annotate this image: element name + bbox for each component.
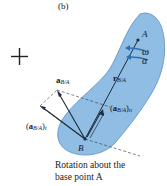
plus-icon [11,48,28,65]
point-a-label: A [142,30,148,39]
panel-label: (b) [58,2,69,11]
alpha-label: α [142,56,147,66]
rigid-body [58,13,165,155]
point-b-label: B [78,144,84,153]
a-ba-normal-label: (aB/A)n [110,104,132,113]
caption-line-1: Rotation about the [55,159,125,171]
a-ba-label: aB/A [56,76,70,85]
figure-caption: Rotation about the base point A [55,159,125,183]
point-a-dot [136,38,139,41]
caption-line-2: base point A [55,171,125,183]
a-ba-tangential-label: (aB/A)t [26,122,47,131]
r-ba-label: rB/A [113,74,126,83]
